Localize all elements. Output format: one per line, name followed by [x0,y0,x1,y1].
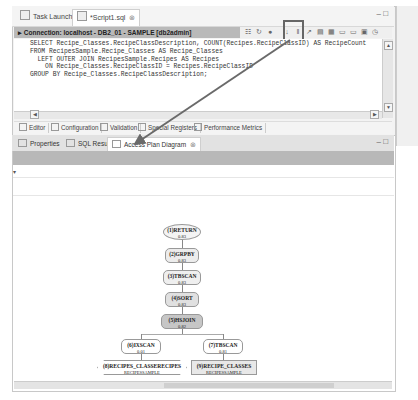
node-sort[interactable]: (4)SORT0.83 [165,292,199,307]
maximize-button[interactable]: □ [383,9,388,18]
toolbar-icon-panel[interactable]: ▭ [338,28,346,36]
edge [141,334,223,335]
toolbar-icon-run[interactable]: ● [266,28,274,36]
scroll-right-button[interactable]: ▶ [370,110,379,119]
panel-tab-bar: Properties SQL Results Access Plan Diagr… [12,135,394,151]
close-icon[interactable]: ⊗ [129,14,135,21]
toolbar-icon-export[interactable]: ▣ [360,28,368,36]
sql-line: ON Recipe_Classes.RecipeClassID = Recipe… [30,63,366,71]
toolbar-icon-format[interactable]: ☷ [244,28,252,36]
table-node-recipe-classes[interactable]: (9)RECIPE_CLASSESRECIPESSAMPLE [191,360,257,375]
editor-vertical-scrollbar[interactable]: ▲ ▼ [382,39,393,118]
tab-label: Properties [30,140,60,147]
diagram-horizontal-scrollbar[interactable] [14,381,392,389]
connection-label: Connection: localhost - DB2_01 - SAMPLE … [24,29,192,36]
access-plan-diagram: (1)RETURN0.83 (2)GRPBY0.83 (3)TBSCAN0.83… [13,178,394,378]
panel-controls: – □ [376,137,388,146]
history-icon[interactable]: ◷ [371,28,379,36]
tab-configuration[interactable]: Configuration [48,123,102,133]
close-icon[interactable]: ⊗ [190,141,196,148]
launcher-icon [20,10,30,20]
tab-label: Access Plan Diagram [124,141,186,148]
node-return[interactable]: (1)RETURN0.83 [163,224,201,240]
sql-results-icon [66,139,75,147]
node-tbscan-2[interactable]: (7)TBSCAN0.81 [203,339,243,354]
edge [182,307,183,314]
tab-label: Editor [29,124,45,131]
editor-toolbar: ☷ ↻ ● ↓ ‖ ↗ ▤ ▦ ▭ ▭ ▣ ◷ [244,28,379,38]
edge [182,240,183,248]
window-controls: – □ [376,9,388,18]
expand-marker[interactable]: ▾ [13,168,16,175]
editor-tab-bar: Editor Configuration Validation Special … [14,121,392,134]
tab-label: Special Registers [148,124,197,131]
access-plan-icon [112,140,121,148]
highlight-box [283,20,304,41]
toolbar-icon-panel2[interactable]: ▭ [349,28,357,36]
scroll-thumb[interactable] [164,383,334,388]
tab-label: Performance Metrics [204,124,262,131]
tab-performance-metrics[interactable]: Performance Metrics [191,123,266,133]
right-side-toolbar [396,6,418,146]
maximize-button[interactable]: □ [383,137,388,146]
tab-script1[interactable]: *Script1.sql⊗ [72,9,140,26]
toolbar-icon-edit[interactable]: ↗ [305,28,313,36]
tab-label: Validation [110,124,137,131]
toolbar-icon-grid[interactable]: ▦ [327,28,335,36]
tab-label: *Script1.sql [90,14,125,21]
node-grpby[interactable]: (2)GRPBY0.83 [165,248,199,263]
sql-line: LEFT OUTER JOIN RecipesSample.Recipes AS… [30,56,366,64]
editor-horizontal-scrollbar[interactable]: ◀ ▶ [14,111,382,119]
edge [182,263,183,270]
scroll-down-button[interactable]: ▼ [384,103,393,112]
validation-icon [100,123,108,131]
node-ixscan[interactable]: (6)IXSCAN0.01 [121,339,161,354]
sql-line: GROUP BY Recipe_Classes.RecipeClassDescr… [30,71,366,79]
top-tab-bar: Task Launcher *Script1.sql⊗ – □ [12,6,394,27]
edge [141,354,142,360]
performance-metrics-icon [194,123,202,131]
properties-icon [18,139,27,147]
node-tbscan[interactable]: (3)TBSCAN0.83 [163,270,201,285]
editor-icon [19,123,27,131]
tab-editor[interactable]: Editor [16,123,49,133]
scroll-up-button[interactable]: ▲ [384,41,393,50]
sql-line: SELECT Recipe_Classes.RecipeClassDescrip… [30,40,366,48]
sql-line: FROM RecipesSample.Recipe_Classes AS Rec… [30,48,366,56]
tab-properties[interactable]: Properties [14,137,64,151]
tab-label: Configuration [61,124,98,131]
sql-text[interactable]: SELECT Recipe_Classes.RecipeClassDescrip… [30,40,366,79]
diagram-header-bar [13,151,394,165]
tab-access-plan-diagram[interactable]: Access Plan Diagram⊗ [107,137,201,152]
toolbar-icon-separator [277,28,280,36]
configuration-icon [51,123,59,131]
edge [182,285,183,292]
sql-file-icon [77,11,87,21]
minimize-button[interactable]: – [376,137,380,146]
index-node-recipes-classerecipes[interactable]: (8)RECIPES_CLASSERECIPESRECIPESSAMPLE [97,360,187,375]
minimize-button[interactable]: – [376,9,380,18]
connection-bar[interactable]: ▸ Connection: localhost - DB2_01 - SAMPL… [14,27,244,38]
toolbar-icon-refresh[interactable]: ↻ [255,28,263,36]
node-hsjoin[interactable]: (5)HSJOIN0.82 [161,314,203,329]
toolbar-icon-table[interactable]: ▤ [316,28,324,36]
scroll-left-button[interactable]: ◀ [30,110,39,119]
special-registers-icon [138,123,146,131]
